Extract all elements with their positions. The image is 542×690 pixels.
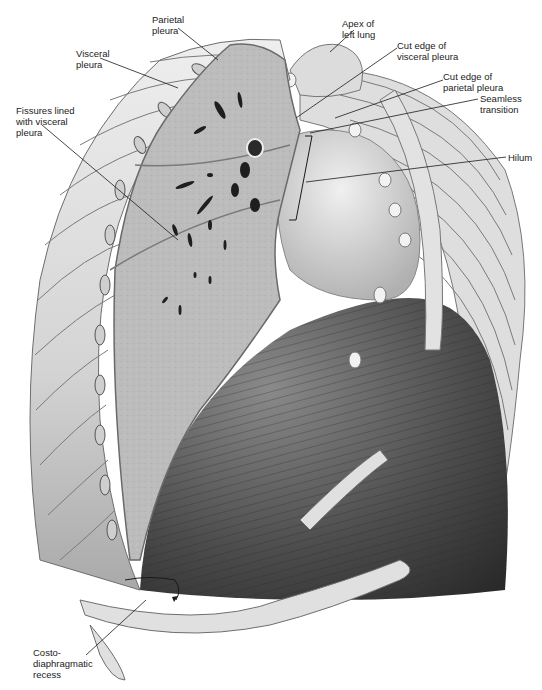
diagram-canvas: Parietal pleura Apex of left lung Viscer…: [0, 0, 542, 690]
label-hilum: Hilum: [508, 152, 532, 163]
label-cut-edge-visceral-pleura: Cut edge of visceral pleura: [397, 40, 458, 62]
label-seamless-transition: Seamless transition: [480, 93, 522, 115]
label-cut-edge-parietal-pleura: Cut edge of parietal pleura: [443, 71, 503, 93]
label-apex-left-lung: Apex of left lung: [342, 18, 375, 40]
apex-left-lung: [290, 44, 363, 96]
label-parietal-pleura: Parietal pleura: [152, 14, 184, 36]
label-costo-diaphragmatic-recess: Costo- diaphragmatic recess: [33, 647, 93, 680]
label-fissures: Fissures lined with visceral pleura: [16, 105, 75, 138]
label-visceral-pleura: Visceral pleura: [76, 48, 110, 70]
thorax-illustration: [0, 0, 542, 690]
